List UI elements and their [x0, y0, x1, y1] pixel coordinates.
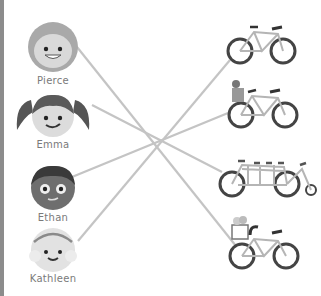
- boy-dark-skin-avatar-icon: [28, 163, 78, 211]
- tandem-bicycle-icon[interactable]: [218, 155, 318, 199]
- person-pierce[interactable]: Pierce: [18, 20, 88, 86]
- bicycle-basket-icon[interactable]: [228, 213, 300, 271]
- person-name: Ethan: [18, 212, 88, 223]
- line-kathleen-regular-bike: [78, 60, 230, 241]
- boy-curly-hair-avatar-icon: [26, 20, 80, 74]
- person-emma[interactable]: Emma: [18, 90, 88, 150]
- person-name: Emma: [18, 139, 88, 150]
- line-ethan-child-seat-bike: [72, 113, 228, 177]
- person-kathleen[interactable]: Kathleen: [18, 226, 88, 284]
- girl-headband-avatar-icon: [26, 226, 80, 272]
- person-name: Kathleen: [18, 273, 88, 284]
- person-name: Pierce: [18, 75, 88, 86]
- person-ethan[interactable]: Ethan: [18, 163, 88, 223]
- bicycle-child-seat-icon[interactable]: [226, 78, 300, 130]
- bicycle-icon[interactable]: [226, 20, 298, 66]
- girl-pigtails-avatar-icon: [13, 90, 93, 138]
